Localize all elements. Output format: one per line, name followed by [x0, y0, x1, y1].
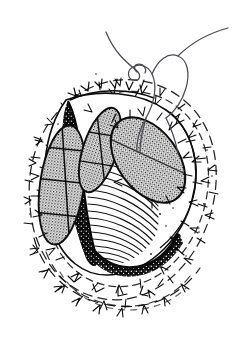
- illustration-canvas: [0, 0, 247, 342]
- surgical-figure: Surgical repair of a cardiac valve with …: [0, 0, 247, 342]
